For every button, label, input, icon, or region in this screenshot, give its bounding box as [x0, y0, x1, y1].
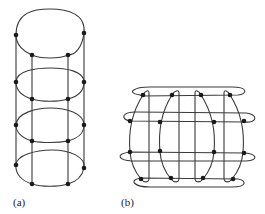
node: [228, 93, 233, 98]
vertical-loop: [224, 91, 243, 182]
node: [170, 93, 175, 98]
ring: [16, 108, 84, 143]
node: [30, 53, 35, 58]
node: [231, 177, 236, 182]
node: [201, 176, 206, 181]
figure-a-diagram: [0, 0, 265, 214]
node: [128, 150, 133, 155]
node: [66, 182, 71, 187]
node: [66, 53, 71, 58]
vertical-loop: [195, 91, 214, 182]
figure-b-label: (b): [121, 197, 134, 208]
ring: [16, 9, 84, 58]
horizontal-loop: [134, 178, 244, 187]
node: [30, 182, 35, 187]
node: [128, 119, 133, 124]
node: [199, 93, 204, 98]
node: [30, 139, 35, 144]
node: [242, 119, 247, 124]
ring: [16, 150, 84, 186]
node: [14, 163, 19, 168]
horizontal-loop: [124, 112, 255, 122]
node: [66, 97, 71, 102]
horizontal-loop: [120, 152, 255, 161]
node: [158, 149, 163, 154]
figure-a-label: (a): [13, 197, 25, 208]
ring: [16, 68, 84, 101]
node: [82, 31, 87, 36]
node: [14, 80, 19, 85]
figure-b: [120, 87, 255, 187]
node: [82, 123, 87, 128]
node: [14, 33, 19, 38]
node: [66, 139, 71, 144]
node: [30, 97, 35, 102]
node: [139, 177, 144, 182]
figure-a: [14, 9, 87, 186]
vertical-loop: [130, 91, 149, 182]
node: [242, 151, 247, 156]
node: [14, 123, 19, 128]
node: [158, 120, 163, 125]
node: [212, 120, 217, 125]
vertical-loop: [159, 91, 179, 182]
node: [169, 176, 174, 181]
node: [141, 93, 146, 98]
node: [82, 166, 87, 171]
node: [212, 150, 217, 155]
node: [82, 80, 87, 85]
